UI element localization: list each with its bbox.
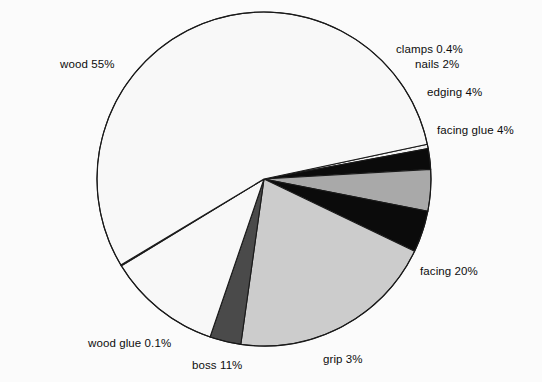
slice-label-nails: nails 2% [415, 57, 459, 71]
slice-label-facing-glue: facing glue 4% [437, 123, 514, 137]
slice-label-wood: wood 55% [60, 57, 115, 71]
slice-label-boss: boss 11% [192, 358, 242, 372]
slice-label-wood-glue: wood glue 0.1% [88, 336, 171, 350]
slice-label-edging: edging 4% [427, 85, 482, 99]
slice-label-facing: facing 20% [420, 264, 478, 278]
pie-chart-figure: wood 55% clamps 0.4% nails 2% edging 4% … [0, 0, 542, 382]
pie-slices-group [97, 12, 431, 346]
slice-label-grip: grip 3% [323, 352, 363, 366]
slice-label-clamps: clamps 0.4% [396, 42, 463, 56]
